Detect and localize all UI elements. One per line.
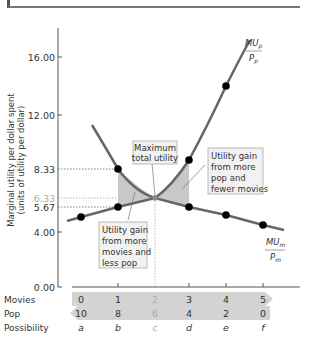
svg-text:total utility: total utility (132, 153, 178, 163)
svg-text:0.00: 0.00 (34, 282, 55, 293)
mu-per-dollar-chart: Marginal utility per dollar spent (units… (0, 0, 313, 339)
svg-text:from more: from more (102, 236, 147, 246)
svg-text:Pp: Pp (249, 53, 258, 65)
svg-text:MUp: MUp (245, 38, 263, 50)
svg-text:Pm: Pm (270, 252, 281, 263)
gain-pop-annotation: Utility gain from more pop and fewer mov… (208, 148, 269, 194)
y-ticks (58, 57, 62, 232)
svg-text:MUm: MUm (266, 237, 286, 248)
svg-text:d: d (186, 322, 193, 333)
guide-lines (58, 169, 118, 207)
svg-text:16.00: 16.00 (28, 52, 55, 63)
svg-text:Movies: Movies (4, 295, 36, 305)
svg-text:a: a (78, 322, 84, 333)
svg-text:b: b (115, 322, 121, 333)
y-tick-labels: 16.00 12.00 8.33 6.33 5.67 4.00 0.00 (28, 52, 55, 293)
svg-text:c: c (152, 322, 158, 333)
svg-text:(units of utility per dollar): (units of utility per dollar) (16, 106, 26, 215)
svg-text:less pop: less pop (102, 258, 137, 268)
svg-text:2: 2 (152, 294, 158, 305)
mu-m-label: MUm Pm (265, 237, 286, 263)
svg-text:4: 4 (223, 294, 229, 305)
svg-text:Utility gain: Utility gain (211, 151, 257, 161)
y-axis-label: Marginal utility per dollar spent (units… (6, 93, 26, 227)
x-ticks (118, 283, 263, 287)
svg-text:5: 5 (260, 294, 266, 305)
svg-text:f: f (261, 322, 266, 333)
svg-text:Marginal utility per dollar sp: Marginal utility per dollar spent (6, 93, 16, 227)
svg-text:0: 0 (78, 294, 84, 305)
max-utility-annotation: Maximum total utility (132, 141, 178, 164)
table-row-labels: Movies Pop Possibility (4, 295, 49, 333)
movies-arrow (72, 292, 273, 306)
svg-text:0: 0 (260, 308, 266, 319)
svg-text:10: 10 (75, 308, 87, 319)
svg-text:12.00: 12.00 (28, 110, 55, 121)
mu-p-label: MUp Pp (245, 38, 263, 65)
equilibrium-point (152, 195, 158, 201)
svg-text:fewer movies: fewer movies (211, 184, 269, 194)
svg-text:6: 6 (152, 308, 158, 319)
svg-text:4.00: 4.00 (34, 227, 55, 238)
svg-text:5.67: 5.67 (34, 202, 55, 213)
svg-text:8.33: 8.33 (34, 164, 55, 175)
svg-text:Maximum: Maximum (134, 143, 176, 153)
svg-text:Pop: Pop (4, 309, 21, 319)
pop-arrow (70, 306, 270, 320)
gain-movies-annotation: Utility gain from more movies and less p… (99, 222, 151, 268)
svg-text:2: 2 (223, 308, 229, 319)
svg-text:movies and: movies and (102, 247, 151, 257)
possibility-row: a b c d e f (78, 322, 266, 333)
svg-text:3: 3 (186, 294, 192, 305)
svg-text:Utility gain: Utility gain (102, 225, 148, 235)
svg-text:from more: from more (211, 162, 256, 172)
svg-text:1: 1 (115, 294, 121, 305)
svg-text:e: e (223, 322, 229, 333)
svg-text:pop and: pop and (211, 173, 246, 183)
svg-text:4: 4 (186, 308, 192, 319)
svg-text:Possibility: Possibility (4, 323, 49, 333)
svg-text:8: 8 (115, 308, 121, 319)
